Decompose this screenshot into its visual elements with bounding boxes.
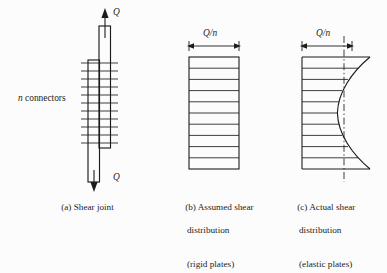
lower-plate: [88, 60, 100, 182]
uniform-band-dividers: [189, 68, 239, 158]
force-label-top: Q: [113, 7, 120, 17]
caption-b-line-2: distribution: [176, 225, 254, 236]
connectors-label-n: n: [18, 93, 23, 103]
panel-a-shear-joint: [81, 8, 118, 192]
dimension-qn-c: [300, 41, 354, 51]
force-arrow-top: [101, 8, 108, 38]
caption-c-line-3: (elastic plates): [288, 259, 355, 270]
caption-b: (b) Assumed shear distribution (rigid pl…: [176, 191, 254, 273]
caption-c-line-2: distribution: [288, 225, 355, 236]
caption-a: (a) Shear joint: [52, 191, 114, 225]
force-label-bottom: Q: [113, 172, 120, 182]
panel-b-assumed-distribution: [187, 41, 241, 169]
dimension-label-b: Q/n: [203, 28, 217, 38]
caption-c-line-1: (c) Actual shear: [297, 202, 355, 212]
connectors-label: n connectors: [18, 93, 66, 103]
caption-b-line-1: (b) Assumed shear: [185, 202, 253, 212]
dimension-qn-b: [187, 41, 241, 51]
caption-c: (c) Actual shear distribution (elastic p…: [288, 191, 355, 273]
panel-c-actual-distribution: [300, 36, 370, 182]
dimension-label-c: Q/n: [316, 28, 330, 38]
force-arrow-bottom: [90, 170, 97, 192]
elastic-distribution-curve: [337, 57, 370, 169]
elastic-ordinate-lines: [302, 68, 358, 158]
caption-b-line-3: (rigid plates): [176, 259, 254, 270]
connectors-label-text: connectors: [25, 93, 66, 103]
caption-a-line-1: (a) Shear joint: [61, 202, 114, 212]
